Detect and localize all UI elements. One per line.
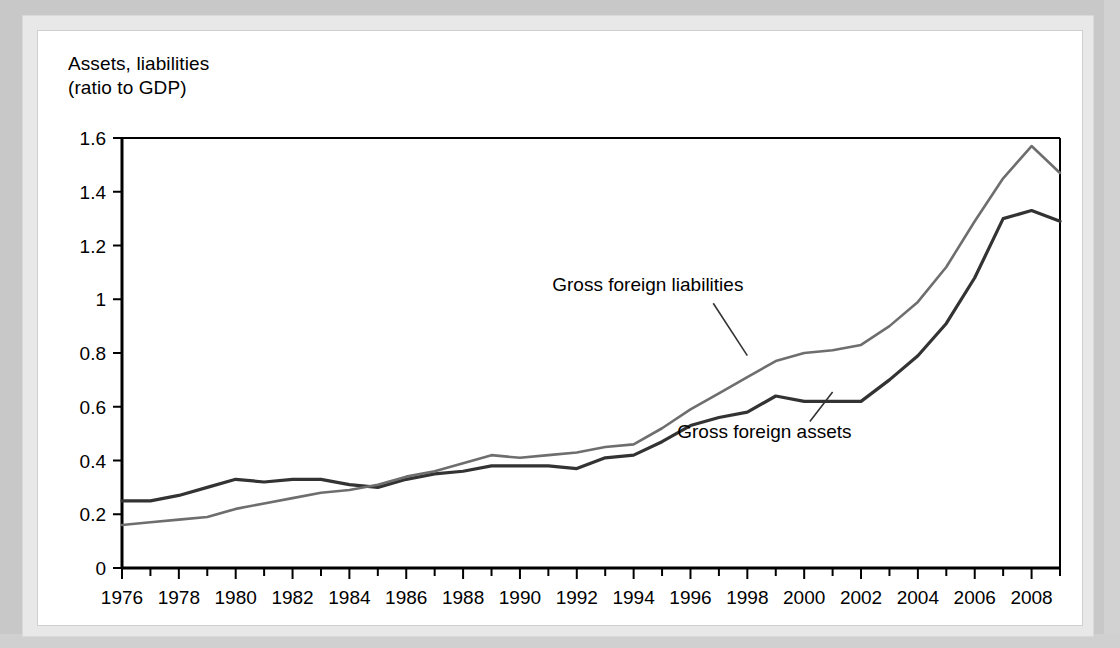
plot-axes [113,138,1060,579]
annotation-label-0: Gross foreign liabilities [552,274,743,295]
x-tick-label: 1982 [271,587,313,608]
y-tick-label: 1.2 [80,236,106,257]
x-tick-label: 1998 [726,587,768,608]
x-tick-label: 1988 [442,587,484,608]
x-tick-label: 1986 [385,587,427,608]
figure-root: Assets, liabilities (ratio to GDP) 00.20… [0,0,1120,648]
annotation-leader-0 [713,303,747,355]
line-chart: 00.20.40.60.811.21.41.6 1976197819801982… [0,0,1120,648]
x-tick-labels: 1976197819801982198419861988199019921994… [101,587,1053,608]
x-tick-label: 1978 [158,587,200,608]
x-tick-label: 1992 [556,587,598,608]
y-tick-label: 0.6 [80,397,106,418]
annotation-label-1: Gross foreign assets [677,421,851,442]
y-tick-label: 1 [95,289,106,310]
y-tick-labels: 00.20.40.60.811.21.41.6 [80,128,107,579]
x-tick-label: 2004 [897,587,940,608]
series-line-assets [122,211,1060,501]
series-lines [122,146,1060,525]
x-tick-label: 1976 [101,587,143,608]
series-annotations: Gross foreign liabilitiesGross foreign a… [552,274,851,441]
x-tick-label: 1990 [499,587,541,608]
x-tick-label: 2006 [954,587,996,608]
x-tick-label: 1980 [215,587,257,608]
x-tick-label: 2008 [1010,587,1052,608]
x-tick-label: 1996 [669,587,711,608]
annotation-leader-1 [810,392,833,422]
y-tick-label: 0.4 [80,451,107,472]
y-tick-label: 0.2 [80,504,106,525]
y-tick-label: 1.4 [80,182,107,203]
x-tick-label: 2002 [840,587,882,608]
y-tick-label: 1.6 [80,128,106,149]
series-line-liabilities [122,146,1060,525]
y-tick-label: 0 [95,558,106,579]
x-tick-label: 1984 [328,587,371,608]
y-tick-label: 0.8 [80,343,106,364]
x-tick-label: 1994 [612,587,655,608]
x-tick-label: 2000 [783,587,825,608]
